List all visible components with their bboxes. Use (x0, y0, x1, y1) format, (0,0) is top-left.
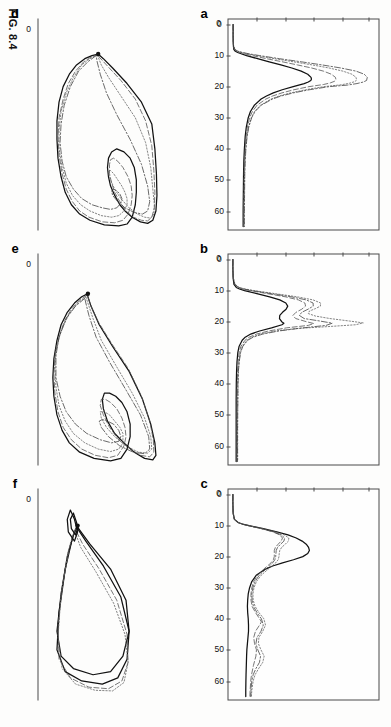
panel-letter-e: e (8, 241, 22, 256)
x-tick-label-c-60: 60 (211, 676, 227, 685)
x-tick-label-c-50: 50 (211, 645, 227, 654)
series-b-solid (232, 259, 287, 461)
y-tick-a-2 (314, 17, 315, 21)
x-tick-label-b-60: 60 (211, 441, 227, 450)
zero-tick-label-a: 0 (210, 17, 226, 27)
y-tick-a-0 (256, 17, 257, 21)
x-tick-label-a-20: 20 (211, 82, 227, 91)
panel-letter-c: c (197, 476, 211, 491)
x-tick-label-a-10: 10 (211, 51, 227, 60)
x-tick-label-a-40: 40 (211, 144, 227, 153)
series-f-poly-outer (56, 525, 128, 674)
series-c-dashdot-1 (232, 494, 284, 696)
series-d-loop-inner (59, 54, 154, 217)
y-tick-c-1 (285, 487, 286, 491)
y-tick-b-0 (256, 252, 257, 256)
series-b-dotted-1 (232, 259, 362, 461)
series-c-dotted-1 (232, 494, 288, 696)
zero-tick-label-d: 0 (20, 23, 36, 33)
chart-panel-f: 0f (29, 488, 179, 700)
x-tick-label-b-20: 20 (211, 317, 227, 326)
y-tick-b-2 (314, 252, 315, 256)
zero-tick-label-f: 0 (20, 493, 36, 503)
plot-curves-b (227, 253, 379, 465)
y-tick-b-4 (368, 252, 369, 256)
chart-panel-b: 01020304050600b (227, 253, 379, 465)
series-f-poly-2 (56, 527, 128, 684)
x-tick-label-a-60: 60 (211, 206, 227, 215)
series-c-dashed-1 (232, 494, 282, 696)
chart-panel-d: 0d (29, 18, 179, 230)
y-tick-c-2 (314, 487, 315, 491)
y-tick-c-0 (256, 487, 257, 491)
plot-curves-c (227, 488, 379, 700)
panel-letter-b: b (197, 241, 211, 256)
series-d-loop-mid (57, 54, 154, 222)
y-tick-a-1 (285, 17, 286, 21)
series-e-loop-2 (53, 295, 153, 458)
x-tick-label-b-30: 30 (211, 348, 227, 357)
y-tick-c-4 (368, 487, 369, 491)
chart-panel-a: 01020304050600a (227, 18, 379, 230)
series-a-dashdot-1 (233, 24, 367, 226)
x-tick-label-a-30: 30 (211, 113, 227, 122)
panel-letter-a: a (197, 6, 211, 21)
x-tick-label-b-50: 50 (211, 410, 227, 419)
zero-tick-label-b: 0 (210, 252, 226, 262)
plot-curves-f (29, 488, 179, 700)
x-tick-label-c-40: 40 (211, 614, 227, 623)
chart-panel-c: 01020304050600c (227, 488, 379, 700)
panel-letter-f: f (8, 476, 22, 491)
series-e-loop-4 (55, 298, 149, 453)
zero-tick-label-c: 0 (210, 487, 226, 497)
chart-panel-e: 0e (29, 253, 179, 465)
figure-canvas: FIG. 8.4 01020304050600a01020304050600b0… (0, 0, 391, 727)
y-tick-c-3 (342, 487, 343, 491)
plot-curves-e (29, 253, 179, 465)
x-tick-label-a-50: 50 (211, 175, 227, 184)
series-e-loop-outer (52, 293, 155, 460)
series-b-dashdot-1 (232, 259, 331, 461)
plot-curves-d (29, 18, 179, 230)
x-tick-label-c-20: 20 (211, 552, 227, 561)
x-tick-label-b-40: 40 (211, 379, 227, 388)
panel-letter-d: d (8, 6, 22, 21)
x-tick-label-c-10: 10 (211, 521, 227, 530)
y-tick-a-3 (342, 17, 343, 21)
x-tick-label-b-10: 10 (211, 286, 227, 295)
y-tick-a-4 (368, 17, 369, 21)
plot-curves-a (227, 18, 379, 230)
zero-tick-label-e: 0 (20, 258, 36, 268)
y-tick-b-1 (285, 252, 286, 256)
x-tick-label-c-30: 30 (211, 583, 227, 592)
y-tick-b-3 (342, 252, 343, 256)
